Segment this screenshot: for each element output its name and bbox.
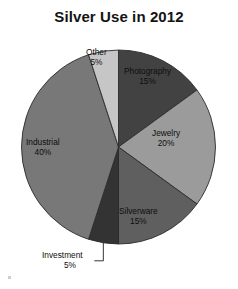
pie-slice-group: [22, 50, 216, 244]
pie-leader-line-investment: [94, 243, 103, 261]
pie-chart-figure: Silver Use in 2012 Photography 15% Jewel…: [0, 0, 238, 289]
scan-artifact-speck: [8, 276, 11, 279]
pie-svg: [0, 0, 238, 289]
pie-leader-line-group: [94, 243, 103, 261]
pie-chart-plot-area: [0, 0, 238, 289]
